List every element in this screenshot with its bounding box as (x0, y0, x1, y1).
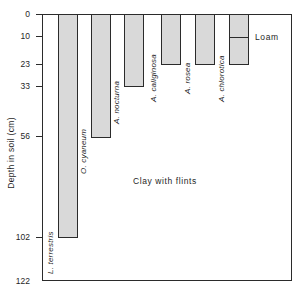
bar-o-cyaneum (91, 15, 111, 138)
species-label-l-terrestris: L. terrestris (46, 231, 55, 274)
bar-l-terrestris (58, 15, 78, 238)
y-tick-label-23: 23 (21, 59, 30, 69)
species-label-a-rosea: A. rosea (183, 63, 192, 94)
clay-with-flints-label: Clay with flints (133, 176, 197, 186)
loam-boundary-line (229, 37, 249, 38)
loam-label: Loam (255, 32, 279, 42)
species-label-a-nocturna: A. nocturna (112, 81, 121, 124)
bar-a-chlorotica (229, 15, 249, 65)
species-label-o-cyaneum: O. cyaneum (79, 129, 88, 174)
y-axis-title: Depth in soil (cm) (6, 93, 16, 213)
bar-a-caliginosa (161, 15, 181, 65)
bar-a-nocturna (124, 15, 144, 87)
y-tick-label-0: 0 (25, 9, 30, 19)
bar-a-rosea (195, 15, 215, 65)
y-tick-label-10: 10 (21, 31, 30, 41)
y-tick-label-102: 102 (16, 232, 30, 242)
plot-area: Loam Clay with flints L. terrestris O. c… (42, 14, 292, 281)
y-tick-label-122: 122 (16, 276, 30, 286)
y-tick-label-56: 56 (21, 131, 30, 141)
y-tick-label-33: 33 (21, 81, 30, 91)
species-label-a-caliginosa: A. caliginosa (149, 54, 158, 102)
species-label-a-chlorotica: A. chlorotica (217, 55, 226, 102)
chart-figure: 0 10 23 33 56 102 122 Depth in soil (cm)… (0, 0, 302, 297)
